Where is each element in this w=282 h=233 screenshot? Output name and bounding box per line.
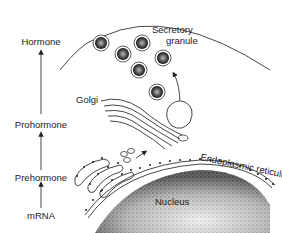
vesicle: [178, 135, 188, 141]
golgi-to-granule-arrow: [174, 74, 180, 105]
label-secretory: Secretory: [152, 24, 193, 35]
golgi-apparatus: [101, 99, 192, 149]
label-golgi: Golgi: [76, 94, 98, 105]
label-nucleus: Nucleus: [155, 196, 190, 207]
hormone-synthesis-diagram: Hormone Prohormone Prehormone mRNA: [0, 0, 282, 233]
label-prehormone: Prehormone: [15, 172, 67, 183]
granule: [134, 35, 150, 51]
transport-vesicles: [121, 149, 146, 163]
label-granule: granule: [166, 35, 198, 46]
secretory-granules: [93, 35, 171, 100]
label-prohormone: Prohormone: [15, 119, 67, 130]
granule: [155, 50, 171, 66]
label-hormone: Hormone: [21, 36, 60, 47]
granule-docked: [93, 35, 109, 51]
granule: [115, 46, 131, 62]
label-mrna: mRNA: [27, 210, 56, 221]
golgi-vesicle-large: [167, 101, 192, 128]
granule: [149, 84, 165, 100]
granule: [131, 62, 147, 78]
